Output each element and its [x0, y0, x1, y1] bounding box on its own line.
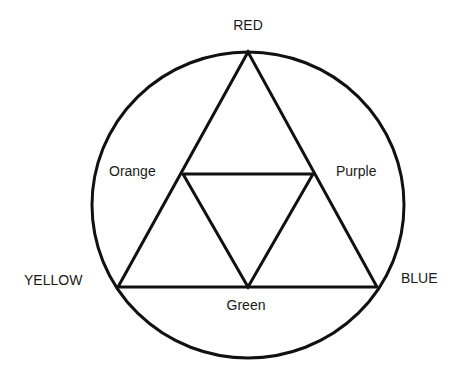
color-wheel-diagram: RED YELLOW BLUE Orange Purple Green — [0, 0, 461, 375]
diagram-canvas — [0, 0, 461, 375]
label-orange: Orange — [109, 164, 156, 178]
label-red: RED — [233, 18, 263, 32]
label-blue: BLUE — [401, 271, 438, 285]
inner-triangle — [183, 174, 313, 287]
label-purple: Purple — [336, 164, 376, 178]
label-yellow: YELLOW — [24, 273, 82, 287]
label-green: Green — [227, 298, 266, 312]
